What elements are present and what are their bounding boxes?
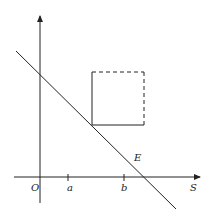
tick-a-label: a: [67, 182, 73, 193]
tick-b-label: b: [121, 182, 127, 193]
diagram-canvas: O a b S E: [0, 0, 213, 218]
origin-label: O: [31, 182, 39, 193]
line-e-label: E: [133, 152, 142, 163]
x-axis-label: S: [190, 182, 197, 193]
